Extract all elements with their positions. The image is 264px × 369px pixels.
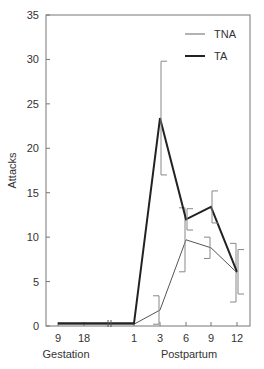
x-tick-label: 3 (157, 332, 163, 344)
legend-label-ta: TA (214, 50, 228, 62)
x-tick-label: 9 (55, 332, 61, 344)
x-tick-label: 9 (208, 332, 214, 344)
y-tick-label: 30 (27, 53, 39, 65)
series-line-ta (58, 118, 237, 323)
y-tick-label: 25 (27, 98, 39, 110)
y-tick-label: 0 (33, 320, 39, 332)
x-group-label-postpartum: Postpartum (161, 348, 217, 360)
y-tick-label: 35 (27, 9, 39, 21)
legend-label-tna: TNA (214, 28, 237, 40)
y-tick-label: 5 (33, 276, 39, 288)
x-tick-label: 18 (78, 332, 90, 344)
x-tick-label: 6 (183, 332, 189, 344)
y-tick-label: 20 (27, 142, 39, 154)
x-tick-label: 1 (131, 332, 137, 344)
x-group-label-gestation: Gestation (42, 348, 89, 360)
y-tick-label: 15 (27, 187, 39, 199)
y-axis-label: Attacks (6, 152, 18, 189)
x-tick-label: 12 (231, 332, 243, 344)
y-tick-label: 10 (27, 231, 39, 243)
line-chart: 05101520253035Attacks918136912GestationP… (0, 0, 264, 369)
